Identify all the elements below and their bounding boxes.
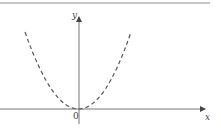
origin-label: 0 bbox=[73, 112, 79, 121]
x-axis-label: x bbox=[205, 113, 210, 122]
parabola-curve bbox=[25, 32, 131, 109]
y-axis-label: y bbox=[72, 11, 77, 20]
plot-area bbox=[0, 0, 221, 131]
